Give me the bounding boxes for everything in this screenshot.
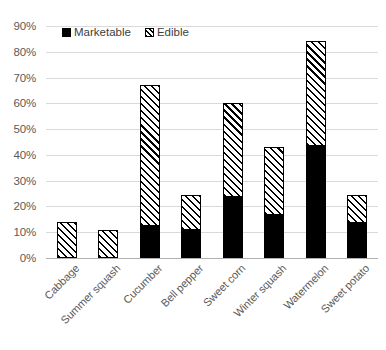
y-axis-tick-label: 40%	[0, 149, 36, 161]
bar-group[interactable]	[98, 26, 118, 258]
legend-item[interactable]: Edible	[145, 26, 189, 38]
y-axis-tick-label: 30%	[0, 175, 36, 187]
legend-label: Edible	[157, 26, 189, 38]
hatched-square-icon	[145, 28, 154, 37]
chart-legend: MarketableEdible	[62, 26, 189, 38]
bar-segment-edible[interactable]	[57, 222, 77, 258]
bar-segment-edible[interactable]	[140, 85, 160, 225]
solid-square-icon	[62, 28, 71, 37]
y-axis-tick-label: 20%	[0, 200, 36, 212]
y-axis-tick-label: 80%	[0, 46, 36, 58]
bar-segment-edible[interactable]	[264, 147, 284, 215]
bar-segment-edible[interactable]	[181, 195, 201, 230]
bar-segment-edible[interactable]	[347, 195, 367, 223]
stacked-bar-chart: 0%10%20%30%40%50%60%70%80%90% CabbageSum…	[0, 0, 386, 350]
bar-group[interactable]	[264, 26, 284, 258]
y-axis-tick-label: 70%	[0, 72, 36, 84]
y-axis-tick-label: 10%	[0, 226, 36, 238]
y-axis-tick-label: 90%	[0, 20, 36, 32]
bar-segment-edible[interactable]	[223, 103, 243, 197]
x-axis-labels: CabbageSummer squashCucumberBell pepperS…	[46, 258, 378, 350]
y-axis-tick-label: 60%	[0, 97, 36, 109]
y-axis-tick-label: 0%	[0, 252, 36, 264]
bar-segment-edible[interactable]	[306, 41, 326, 145]
bar-group[interactable]	[57, 26, 77, 258]
legend-label: Marketable	[74, 26, 131, 38]
bar-group[interactable]	[223, 26, 243, 258]
y-axis-tick-label: 50%	[0, 123, 36, 135]
bar-group[interactable]	[181, 26, 201, 258]
legend-item[interactable]: Marketable	[62, 26, 131, 38]
